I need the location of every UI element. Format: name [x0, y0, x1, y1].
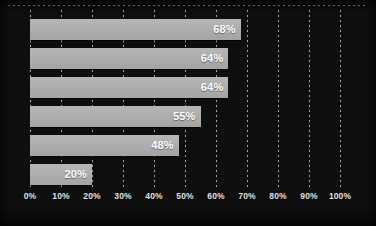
bar-value-label: 68%: [213, 19, 236, 40]
x-tick-label-0pct: 0%: [24, 191, 37, 201]
x-tick-label-90pct: 90%: [300, 191, 317, 201]
bar-row: 20%: [30, 164, 92, 185]
x-tick-label-10pct: 10%: [52, 191, 69, 201]
bar-value-label: 20%: [64, 164, 87, 185]
bar-value-label: 55%: [173, 106, 196, 127]
bar-row: 64%: [30, 77, 228, 98]
gridline-80pct: [278, 10, 279, 188]
gridline-100pct: [340, 10, 341, 188]
bar-row: 55%: [30, 106, 201, 127]
x-tick-label-50pct: 50%: [176, 191, 193, 201]
bar: [30, 19, 241, 40]
x-tick-label-40pct: 40%: [145, 191, 162, 201]
x-tick-label-20pct: 20%: [83, 191, 100, 201]
bar: [30, 48, 228, 69]
bar-value-label: 64%: [201, 48, 224, 69]
bar-value-label: 48%: [151, 135, 174, 156]
plot-area: 68%64%64%55%48%20% 0%10%20%30%40%50%60%7…: [0, 0, 376, 226]
bar-row: 48%: [30, 135, 179, 156]
bar-row: 68%: [30, 19, 241, 40]
x-tick-label-80pct: 80%: [269, 191, 286, 201]
bar: [30, 77, 228, 98]
bar-chart: 68%64%64%55%48%20% 0%10%20%30%40%50%60%7…: [0, 0, 376, 226]
x-tick-label-30pct: 30%: [114, 191, 131, 201]
x-tick-label-100pct: 100%: [329, 191, 351, 201]
x-tick-label-70pct: 70%: [238, 191, 255, 201]
bar-value-label: 64%: [201, 77, 224, 98]
x-tick-label-60pct: 60%: [207, 191, 224, 201]
top-dotted-rule: [8, 5, 368, 6]
gridline-70pct: [247, 10, 248, 188]
gridline-90pct: [309, 10, 310, 188]
bar-row: 64%: [30, 48, 228, 69]
